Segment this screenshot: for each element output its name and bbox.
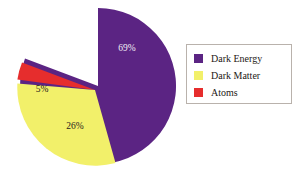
slice-label-dark-energy: 69% [118, 43, 136, 53]
legend-label-dark-matter: Dark Matter [211, 70, 260, 81]
pie-graphic: 69% 26% 5% [8, 0, 184, 170]
slice-label-dark-matter: 26% [66, 121, 84, 131]
legend-swatch-dark-energy [194, 54, 203, 63]
slice-label-atoms: 5% [36, 84, 49, 94]
legend-item-dark-energy[interactable]: Dark Energy [194, 50, 291, 66]
legend-item-dark-matter[interactable]: Dark Matter [194, 67, 291, 83]
chart-legend: Dark Energy Dark Matter Atoms [186, 44, 292, 104]
legend-swatch-atoms [194, 88, 203, 97]
legend-label-atoms: Atoms [211, 87, 238, 98]
pie-chart: 69% 26% 5% Dark Energy Dark Matter Atoms [0, 0, 299, 170]
legend-swatch-dark-matter [194, 71, 203, 80]
legend-item-atoms[interactable]: Atoms [194, 84, 291, 100]
legend-label-dark-energy: Dark Energy [211, 53, 262, 64]
